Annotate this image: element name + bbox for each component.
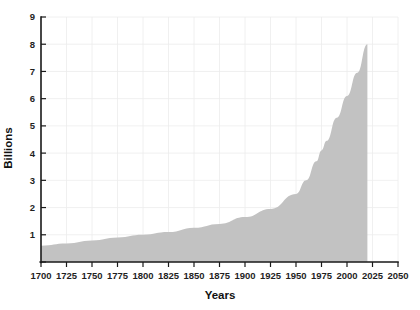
y-tick-label-6: 6 <box>30 93 35 104</box>
chart-canvas: 123456789 170017251750177518001825185018… <box>0 0 420 310</box>
y-tick-label-3: 3 <box>30 175 35 186</box>
x-tick-label-2000: 2000 <box>336 270 357 281</box>
x-axis-ticks: 1700172517501775180018251850187519001925… <box>30 262 408 281</box>
x-axis-title: Years <box>205 289 236 301</box>
x-tick-label-1825: 1825 <box>158 270 180 281</box>
x-tick-label-1850: 1850 <box>183 270 204 281</box>
y-tick-label-8: 8 <box>30 39 35 50</box>
y-tick-label-5: 5 <box>30 120 36 131</box>
x-tick-label-1700: 1700 <box>30 270 51 281</box>
y-tick-label-9: 9 <box>30 11 35 22</box>
y-tick-label-7: 7 <box>30 66 35 77</box>
x-tick-label-1975: 1975 <box>311 270 333 281</box>
x-tick-label-1725: 1725 <box>56 270 78 281</box>
y-tick-label-2: 2 <box>30 202 35 213</box>
x-tick-label-2050: 2050 <box>387 270 408 281</box>
x-tick-label-1800: 1800 <box>132 270 153 281</box>
y-tick-label-4: 4 <box>30 148 36 159</box>
x-tick-label-1925: 1925 <box>260 270 282 281</box>
x-tick-label-1900: 1900 <box>234 270 255 281</box>
x-tick-label-1950: 1950 <box>285 270 306 281</box>
population-area-chart: 123456789 170017251750177518001825185018… <box>0 0 420 310</box>
y-axis-title: Billions <box>2 127 14 169</box>
x-tick-label-1750: 1750 <box>81 270 102 281</box>
y-tick-label-1: 1 <box>30 229 36 240</box>
x-tick-label-2025: 2025 <box>362 270 384 281</box>
x-tick-label-1875: 1875 <box>209 270 231 281</box>
y-axis-ticks: 123456789 <box>30 11 46 262</box>
x-tick-label-1775: 1775 <box>107 270 129 281</box>
